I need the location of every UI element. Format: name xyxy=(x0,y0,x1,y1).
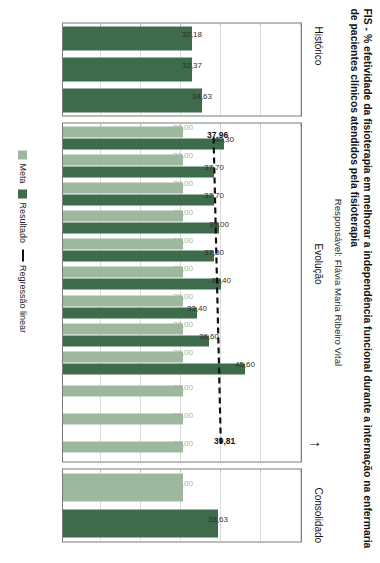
bar-value-label: 38,63 xyxy=(208,515,228,523)
rotated-chart-canvas: FIS - % efetividade da fisioterapia em m… xyxy=(0,0,380,563)
bars-historico: 32,1832,3734,63 xyxy=(63,23,301,115)
bar-value-label: 33,40 xyxy=(187,304,207,312)
legend-item-meta: Meta xyxy=(18,150,28,183)
bar-group: 30,0040,30 xyxy=(63,123,301,151)
chart-legend: Meta Resultado Regressão linear xyxy=(18,150,28,333)
bar-res: 32,37 xyxy=(63,57,192,81)
bars-evolucao: 30,0040,3030,0037,7030,0037,7030,0039,00… xyxy=(63,123,301,461)
legend-dash-line-icon xyxy=(22,249,24,261)
bar-group: 30,0045,60 xyxy=(63,348,301,376)
bar-value-label: 45,60 xyxy=(235,360,255,368)
bar-value-label: 30,00 xyxy=(173,151,193,159)
bar-meta: 30,00 xyxy=(63,126,183,137)
bar-meta: 30,00 xyxy=(63,210,183,221)
trend-arrow-icon: ↑ xyxy=(309,440,324,448)
bar-res: 37,70 xyxy=(63,194,214,205)
bar-res: 45,60 xyxy=(63,363,245,374)
bar-value-label: 37,80 xyxy=(204,248,224,256)
bar-meta: 30,00 xyxy=(63,238,183,249)
bar-value-label: 30,00 xyxy=(173,264,193,272)
regression-end-label: 39,81 xyxy=(214,435,235,445)
bar-meta: 30,00 xyxy=(63,182,183,193)
legend-swatch-resultado-icon xyxy=(19,189,28,198)
bar-group: 30,0036,60 xyxy=(63,320,301,348)
legend-label-regressao: Regressão linear xyxy=(18,265,28,333)
bar-meta: 30,00 xyxy=(63,441,183,452)
legend-item-regressao: Regressão linear xyxy=(18,249,28,333)
regression-start-label: 37,96 xyxy=(207,129,228,139)
bar-meta: 30,00 xyxy=(63,323,183,334)
bar-meta: 30,00 xyxy=(63,473,183,501)
band-label-consolidado: Consolidado xyxy=(313,487,324,543)
bar-meta: 30,00 xyxy=(63,351,183,362)
panel-evolucao: 30,0040,3030,0037,7030,0037,7030,0039,00… xyxy=(62,122,302,462)
bar-value-label: 34,63 xyxy=(192,92,212,100)
bar-group: 32,37 xyxy=(63,54,301,85)
bar-meta: 30,00 xyxy=(63,154,183,165)
bar-res: 32,18 xyxy=(63,26,192,50)
bar-res: 33,40 xyxy=(63,307,197,318)
bar-group: 30,0037,80 xyxy=(63,236,301,264)
bar-meta: 30,00 xyxy=(63,266,183,277)
bar-group: 30,00 xyxy=(63,469,301,505)
bar-value-label: 32,37 xyxy=(182,61,202,69)
bar-value-label: 30,00 xyxy=(173,320,193,328)
bar-res: 37,80 xyxy=(63,250,214,261)
bar-value-label: 39,40 xyxy=(211,276,231,284)
bar-group: 30,0039,00 xyxy=(63,208,301,236)
bar-group: 30,0033,40 xyxy=(63,292,301,320)
bar-value-label: 30,00 xyxy=(173,123,193,131)
bar-value-label: 30,00 xyxy=(173,179,193,187)
bar-value-label: 30,00 xyxy=(173,439,193,447)
bar-value-label: 30,00 xyxy=(173,348,193,356)
bar-meta: 30,00 xyxy=(63,385,183,396)
bar-value-label: 30,00 xyxy=(173,411,193,419)
bar-meta: 30,00 xyxy=(63,295,183,306)
page-subtitle: Responsável: Flávia Maria Ribeiro Vital xyxy=(332,8,344,556)
bar-value-label: 36,60 xyxy=(199,332,219,340)
bar-group: 30,0037,70 xyxy=(63,151,301,179)
bar-group: 38,63 xyxy=(63,505,301,541)
bar-group: 30,00 xyxy=(63,405,301,433)
page-title: FIS - % efetividade da fisioterapia em m… xyxy=(348,8,374,556)
bar-group: 30,0039,40 xyxy=(63,264,301,292)
bar-res: 36,60 xyxy=(63,335,209,346)
chart-sheet: FIS - % efetividade da fisioterapia em m… xyxy=(0,0,380,563)
bar-value-label: 30,00 xyxy=(173,292,193,300)
panel-historico: 32,1832,3734,63 xyxy=(62,22,302,116)
bar-value-label: 37,70 xyxy=(204,163,224,171)
bar-group: 32,18 xyxy=(63,23,301,54)
bar-value-label: 39,00 xyxy=(209,220,229,228)
bar-res: 34,63 xyxy=(63,88,202,112)
bar-value-label: 30,00 xyxy=(173,383,193,391)
legend-label-meta: Meta xyxy=(18,163,28,183)
legend-label-resultado: Resultado xyxy=(18,202,28,243)
bar-group: 30,00 xyxy=(63,433,301,461)
bar-res: 37,70 xyxy=(63,166,214,177)
bar-group: 34,63 xyxy=(63,84,301,115)
bar-res: 39,00 xyxy=(63,222,219,233)
bar-meta: 30,00 xyxy=(63,413,183,424)
band-label-historico: Histórico xyxy=(313,26,324,65)
bar-res: 38,63 xyxy=(63,509,218,537)
bar-value-label: 30,00 xyxy=(173,479,193,487)
bars-consolidado: 30,0038,63 xyxy=(63,469,301,541)
bar-res: 39,40 xyxy=(63,278,221,289)
panel-consolidado: 30,0038,63 xyxy=(62,468,302,542)
legend-item-resultado: Resultado xyxy=(18,189,28,243)
bar-value-label: 30,00 xyxy=(173,236,193,244)
bar-group: 30,00 xyxy=(63,377,301,405)
bar-group: 30,0037,70 xyxy=(63,179,301,207)
bar-value-label: 32,18 xyxy=(182,30,202,38)
legend-swatch-meta-icon xyxy=(19,150,28,159)
bar-res: 40,30 xyxy=(63,138,224,149)
band-label-evolucao: Evolução xyxy=(313,243,324,284)
bar-value-label: 37,70 xyxy=(204,191,224,199)
bar-value-label: 30,00 xyxy=(173,208,193,216)
